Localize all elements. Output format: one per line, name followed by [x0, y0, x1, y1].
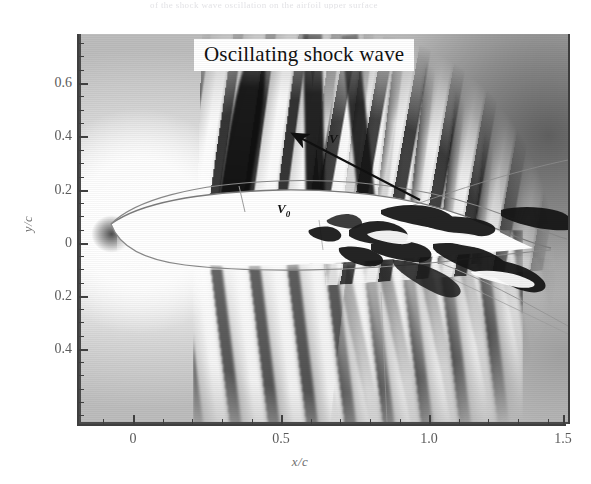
y-tick-minor	[79, 375, 84, 376]
freestream-velocity-label: V0	[277, 202, 290, 219]
x-tick-major-2	[429, 415, 431, 424]
x-axis-title: x/c	[280, 454, 320, 470]
x-tick-minor	[370, 419, 371, 424]
y-tick-minor	[79, 269, 84, 270]
x-tick-minor	[163, 419, 164, 424]
y-tick-minor	[79, 309, 84, 310]
x-tick-minor	[252, 419, 253, 424]
y-tick-minor	[79, 56, 84, 57]
y-tick-minor	[79, 70, 84, 71]
y-tick-minor	[79, 336, 84, 337]
x-tick-minor	[340, 419, 341, 424]
turbulent-wake	[81, 34, 568, 424]
x-tick-minor	[548, 419, 549, 424]
x-tick-label-3: 1.5	[543, 431, 583, 447]
y-tick-minor	[79, 96, 84, 97]
x-tick-minor	[192, 419, 193, 424]
shock-wave-annotation: Oscillating shock wave	[194, 39, 414, 71]
x-tick-minor	[103, 419, 104, 424]
y-tick-minor	[79, 150, 84, 151]
y-tick-minor	[79, 203, 84, 204]
wake-blob-9	[309, 227, 342, 242]
y-tick-minor	[79, 256, 84, 257]
wake-blob-11	[327, 214, 362, 229]
y-tick-minor	[79, 322, 84, 323]
x-tick-major-1	[281, 415, 283, 424]
y-tick-label-0: 0.6	[28, 75, 72, 91]
y-tick-minor	[79, 402, 84, 403]
wake-blob-10	[393, 260, 461, 297]
y-tick-minor	[79, 362, 84, 363]
y-tick-minor	[79, 415, 84, 416]
x-tick-label-0: 0	[113, 431, 153, 447]
wake-blob-8	[501, 207, 568, 230]
y-tick-minor	[79, 163, 84, 164]
x-tick-major-3	[563, 415, 565, 424]
freestream-velocity-symbol: V	[277, 201, 286, 216]
y-tick-major-0	[79, 83, 88, 85]
x-tick-label-2: 1.0	[409, 431, 449, 447]
y-tick-minor	[79, 177, 84, 178]
velocity-label-v-text: V	[329, 131, 338, 146]
x-tick-minor	[311, 419, 312, 424]
x-tick-major-0	[133, 415, 135, 424]
x-tick-minor	[400, 419, 401, 424]
x-tick-minor	[459, 419, 460, 424]
cut-off-caption: of the shock wave oscillation on the air…	[150, 0, 580, 9]
y-tick-minor	[79, 389, 84, 390]
y-tick-major-2	[79, 190, 88, 192]
freestream-velocity-subscript: 0	[286, 209, 291, 219]
y-tick-label-5: 0.4	[28, 341, 72, 357]
y-tick-minor	[79, 283, 84, 284]
y-tick-major-3	[79, 243, 88, 245]
y-tick-label-1: 0.4	[28, 128, 72, 144]
x-tick-minor	[222, 419, 223, 424]
y-tick-major-4	[79, 296, 88, 298]
plot-area: Oscillating shock wave V V0	[79, 34, 570, 424]
y-tick-minor	[79, 230, 84, 231]
x-tick-minor	[488, 419, 489, 424]
x-axis-line	[79, 424, 566, 426]
y-tick-minor	[79, 216, 84, 217]
y-tick-label-4: 0.2	[28, 288, 72, 304]
schlieren-figure: of the shock wave oscillation on the air…	[0, 0, 591, 484]
velocity-label-v: V	[329, 132, 338, 145]
y-tick-minor	[79, 43, 84, 44]
y-axis-title: y/c	[20, 204, 36, 244]
y-tick-label-2: 0.2	[28, 182, 72, 198]
y-tick-minor	[79, 123, 84, 124]
y-tick-major-5	[79, 349, 88, 351]
x-tick-minor	[518, 419, 519, 424]
y-tick-minor	[79, 110, 84, 111]
y-tick-major-1	[79, 136, 88, 138]
x-tick-label-1: 0.5	[261, 431, 301, 447]
